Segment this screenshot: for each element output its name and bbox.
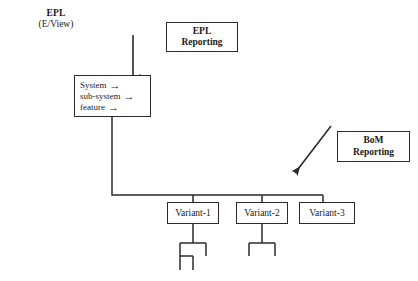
right-arrow-icon: →: [110, 79, 121, 90]
bom-reporting-box[interactable]: BoM Reporting: [337, 131, 410, 162]
structure-box[interactable]: System → sub-system → feature →: [74, 75, 151, 117]
epl-reporting-box[interactable]: EPL Reporting: [166, 22, 238, 52]
variant-box-3-label: Variant-3: [309, 208, 344, 218]
structure-row-feature: feature →: [80, 102, 144, 113]
variant-box-2[interactable]: Variant-2: [236, 202, 288, 224]
structure-row-feature-label: feature: [80, 102, 105, 113]
epl-view-caption: EPL (E/View): [18, 8, 94, 30]
epl-reporting-label-line2: Reporting: [181, 37, 222, 48]
structure-to-bus-connector: [112, 117, 323, 195]
right-arrow-icon: →: [124, 90, 135, 101]
variant-box-3[interactable]: Variant-3: [299, 202, 355, 224]
variant-box-1-label: Variant-1: [175, 208, 210, 218]
structure-row-system-label: System: [80, 80, 107, 91]
variant-box-2-label: Variant-2: [244, 208, 279, 218]
bom-reporting-label-line2: Reporting: [353, 147, 394, 158]
epl-view-caption-line1: EPL: [18, 8, 94, 19]
bom-reporting-arrow: [295, 126, 331, 173]
variant-box-1[interactable]: Variant-1: [167, 202, 219, 224]
epl-reporting-label-line1: EPL: [193, 26, 211, 37]
right-arrow-icon: →: [108, 101, 119, 112]
bom-reporting-label-line1: BoM: [363, 135, 383, 146]
epl-view-caption-line2: (E/View): [18, 19, 94, 30]
diagram-canvas: EPL (E/View) EPL Reporting BoM Reporting…: [0, 0, 418, 281]
